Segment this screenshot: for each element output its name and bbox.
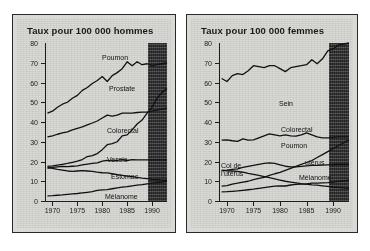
x-axis-label: 1975 bbox=[246, 207, 262, 214]
chart-panel-femmes: Taux pour 100 000 femmes 010203040506070… bbox=[186, 14, 358, 233]
y-axis-label: 80 bbox=[30, 40, 38, 47]
x-axis-tick bbox=[333, 202, 334, 206]
y-axis-label: 50 bbox=[30, 99, 38, 106]
x-axis-tick bbox=[227, 202, 228, 206]
series-label: utérus bbox=[305, 159, 324, 167]
x-axis-tick bbox=[152, 202, 153, 206]
y-axis-label: 60 bbox=[30, 79, 38, 86]
y-axis-label: 60 bbox=[204, 79, 212, 86]
y-axis-label: 80 bbox=[204, 40, 212, 47]
y-axis-label: 50 bbox=[204, 99, 212, 106]
series-label: Vessie bbox=[107, 156, 128, 164]
series-label: Sein bbox=[279, 100, 293, 108]
x-axis-label: 1980 bbox=[272, 207, 288, 214]
y-axis-label: 30 bbox=[204, 138, 212, 145]
series-lines bbox=[45, 43, 167, 201]
plot-area-femmes: 0102030405060708019701975198019851990Sei… bbox=[219, 43, 349, 201]
series-label: Estomac bbox=[111, 173, 138, 181]
figure-container: Taux pour 100 000 hommes 010203040506070… bbox=[0, 0, 370, 251]
y-axis-label: 70 bbox=[204, 59, 212, 66]
x-axis-tick bbox=[102, 202, 103, 206]
x-axis-tick bbox=[52, 202, 53, 206]
series-label: Poumon bbox=[102, 54, 128, 62]
y-axis-label: 40 bbox=[30, 119, 38, 126]
y-axis-label: 30 bbox=[30, 138, 38, 145]
y-axis-tick bbox=[215, 201, 220, 202]
x-axis-label: 1990 bbox=[325, 207, 341, 214]
series-line-estomac bbox=[47, 167, 167, 180]
y-axis-label: 0 bbox=[208, 198, 212, 205]
series-label: Colorectal bbox=[107, 127, 139, 135]
chart-title-hommes: Taux pour 100 000 hommes bbox=[27, 25, 153, 36]
plot-area-hommes: 0102030405060708019701975198019851990Pou… bbox=[45, 43, 167, 201]
x-axis-tick bbox=[253, 202, 254, 206]
panel-inner-femmes: Taux pour 100 000 femmes 010203040506070… bbox=[191, 19, 353, 228]
x-axis-tick bbox=[307, 202, 308, 206]
x-axis-label: 1980 bbox=[94, 207, 110, 214]
y-axis-label: 70 bbox=[30, 59, 38, 66]
chart-title-femmes: Taux pour 100 000 femmes bbox=[201, 25, 324, 36]
x-axis-label: 1985 bbox=[119, 207, 135, 214]
series-label: Poumon bbox=[281, 142, 307, 150]
series-label: l'utérus bbox=[221, 170, 243, 178]
x-axis-line bbox=[219, 201, 349, 202]
series-line-poumon bbox=[47, 62, 167, 113]
chart-panel-hommes: Taux pour 100 000 hommes 010203040506070… bbox=[12, 14, 176, 233]
y-axis-label: 0 bbox=[34, 198, 38, 205]
series-line-colorectal bbox=[222, 133, 349, 141]
x-axis-label: 1970 bbox=[219, 207, 235, 214]
series-line-sein bbox=[222, 43, 349, 82]
x-axis-label: 1970 bbox=[45, 207, 61, 214]
series-label: Col de bbox=[221, 162, 241, 170]
y-axis-label: 10 bbox=[30, 178, 38, 185]
series-label: Prostate bbox=[109, 85, 135, 93]
x-axis-tick bbox=[127, 202, 128, 206]
x-axis-label: 1990 bbox=[144, 207, 160, 214]
series-label: Mélanome bbox=[105, 193, 138, 201]
y-axis-label: 20 bbox=[30, 158, 38, 165]
y-axis-label: 10 bbox=[204, 178, 212, 185]
x-axis-label: 1975 bbox=[70, 207, 86, 214]
y-axis-label: 40 bbox=[204, 119, 212, 126]
x-axis-line bbox=[45, 201, 167, 202]
x-axis-label: 1985 bbox=[299, 207, 315, 214]
y-axis-label: 20 bbox=[204, 158, 212, 165]
y-axis-tick bbox=[41, 201, 46, 202]
x-axis-tick bbox=[280, 202, 281, 206]
series-label: Colorectal bbox=[281, 126, 313, 134]
x-axis-tick bbox=[77, 202, 78, 206]
panel-inner-hommes: Taux pour 100 000 hommes 010203040506070… bbox=[17, 19, 171, 228]
series-label: Mélanome bbox=[299, 174, 332, 182]
